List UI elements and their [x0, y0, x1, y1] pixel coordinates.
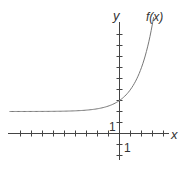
axes	[8, 22, 169, 160]
y-unit-label: 1	[109, 120, 116, 134]
curve-label: f(x)	[146, 10, 163, 24]
axis-ticks	[21, 35, 164, 156]
x-unit-label: 1	[124, 141, 131, 155]
y-axis-label: y	[112, 8, 121, 23]
x-axis-label: x	[170, 127, 178, 142]
function-graph: y x f(x) 1 1	[0, 0, 183, 170]
function-curve	[10, 17, 154, 111]
